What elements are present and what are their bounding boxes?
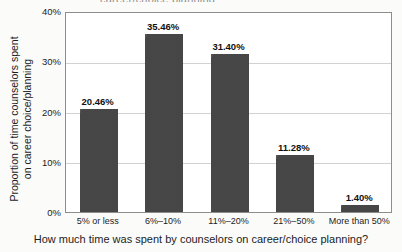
bar (80, 109, 118, 212)
bar-chart-figure: career/choice planning Proportion of tim… (0, 0, 402, 252)
y-axis-title-line-2: on career choice/planning (21, 14, 34, 224)
x-axis-tick-label: More than 50% (314, 216, 402, 226)
y-axis-tick-label: 30% (27, 56, 61, 67)
y-axis-title-line-1: Proportion of time counselors spent (8, 14, 21, 224)
bar-value-label: 1.40% (319, 192, 399, 203)
bar (276, 155, 314, 212)
bar-value-label: 31.40% (189, 41, 269, 52)
y-axis-tick-label: 10% (27, 157, 61, 168)
x-axis-title: How much time was spent by counselors on… (0, 233, 402, 245)
bar (341, 205, 379, 212)
y-axis-tick-label: 20% (27, 107, 61, 118)
bar-value-label: 11.28% (254, 142, 334, 153)
y-axis-title: Proportion of time counselors spent on c… (8, 14, 34, 224)
bar-value-label: 35.46% (123, 21, 203, 32)
y-axis-tick-label: 40% (27, 6, 61, 17)
bar-value-label: 20.46% (58, 96, 138, 107)
cropped-title-remnant: career/choice planning (100, 0, 290, 2)
bar (211, 54, 249, 212)
bar (145, 34, 183, 212)
